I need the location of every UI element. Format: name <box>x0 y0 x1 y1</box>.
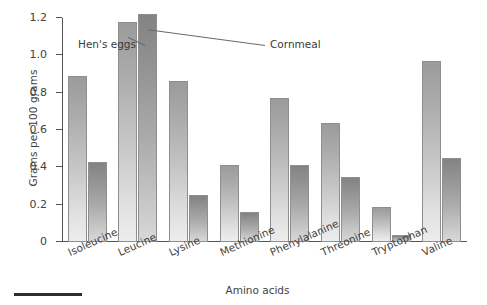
bar-group <box>422 18 461 242</box>
bar-group <box>270 18 309 242</box>
bar <box>169 81 188 242</box>
bar <box>372 207 391 242</box>
bar <box>442 158 461 242</box>
y-axis-tick-label: 0.2 <box>30 197 48 210</box>
bar-group <box>169 18 208 242</box>
bar <box>118 22 137 242</box>
footer-rule <box>14 293 82 296</box>
bar <box>270 98 289 242</box>
y-axis-tick-label: 1.0 <box>30 48 48 61</box>
series-annotation-label: Cornmeal <box>270 38 321 50</box>
y-axis-tick-label: 0.8 <box>30 85 48 98</box>
bar-group <box>118 18 157 242</box>
y-axis-tick-label: 0.4 <box>30 160 48 173</box>
bar-group <box>68 18 107 242</box>
bar <box>220 165 239 242</box>
y-axis-tick-label: 1.2 <box>30 11 48 24</box>
series-annotation-label: Hen's eggs <box>78 38 136 50</box>
bar-series-container <box>62 18 467 242</box>
bar-chart-figure: Grams per 100 grams 00.20.40.60.81.01.2 … <box>0 0 487 305</box>
bar-group <box>321 18 360 242</box>
bar <box>138 14 157 242</box>
plot-area: 00.20.40.60.81.01.2 Hen's eggsCornmeal <box>62 18 467 242</box>
bar <box>68 76 87 242</box>
y-axis-tick-label: 0.6 <box>30 123 48 136</box>
bar-group <box>220 18 259 242</box>
y-axis-tick-label: 0 <box>40 235 47 248</box>
bar-group <box>372 18 411 242</box>
bar <box>422 61 441 242</box>
